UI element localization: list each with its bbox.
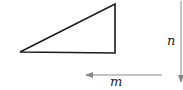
- diagram-canvas: m n: [0, 0, 183, 90]
- label-m: m: [110, 74, 122, 89]
- right-triangle: [20, 4, 115, 53]
- label-n: n: [167, 33, 175, 48]
